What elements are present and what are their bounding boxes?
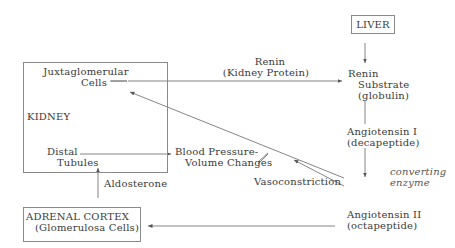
angiotensin-1-line1: Angiotensin I — [347, 126, 420, 137]
blood-pressure-line2: Volume Changes — [175, 157, 272, 168]
renin-substrate-line3: (globulin) — [348, 90, 409, 101]
adrenal-cortex-label: ADRENAL CORTEX (Glomerulosa Cells) — [26, 211, 139, 233]
angiotensin-2-label: Angiotensin II (octapeptide) — [347, 209, 421, 231]
liver-box: LIVER — [351, 15, 395, 34]
juxtaglomerular-label: Juxtaglomerular Cells — [36, 66, 136, 88]
renin-line2: (Kidney Protein) — [207, 67, 325, 78]
angiotensin-2-line1: Angiotensin II — [347, 209, 421, 220]
angiotensin-2-line2: (octapeptide) — [347, 220, 421, 231]
adrenal-cortex-line2: (Glomerulosa Cells) — [26, 222, 139, 233]
vasoconstriction-label: Vasoconstriction — [254, 176, 341, 187]
adrenal-cortex-line1: ADRENAL CORTEX — [26, 211, 139, 222]
converting-enzyme-label: converting enzyme — [380, 166, 446, 188]
blood-pressure-label: Blood Pressure- Volume Changes — [175, 146, 272, 168]
blood-pressure-line1: Blood Pressure- — [175, 146, 272, 157]
renin-line1: Renin — [215, 56, 325, 67]
distal-tubules-label: Distal Tubules — [47, 146, 99, 168]
angiotensin-1-label: Angiotensin I (decapeptide) — [347, 126, 420, 148]
aldosterone-label: Aldosterone — [104, 178, 167, 189]
kidney-label: KIDNEY — [27, 111, 70, 122]
renin-substrate-line1: Renin — [348, 68, 409, 79]
converting-enzyme-line1: converting — [380, 166, 446, 177]
distal-line2: Tubules — [47, 157, 99, 168]
juxtaglomerular-line2: Cells — [36, 77, 136, 88]
liver-label: LIVER — [356, 19, 390, 30]
renin-substrate-label: Renin Substrate (globulin) — [348, 68, 409, 101]
angiotensin-1-line2: (decapeptide) — [347, 137, 420, 148]
juxtaglomerular-line1: Juxtaglomerular — [36, 66, 136, 77]
renin-label: Renin (Kidney Protein) — [215, 56, 325, 78]
renin-substrate-line2: Substrate — [348, 79, 409, 90]
distal-line1: Distal — [47, 146, 99, 157]
converting-enzyme-line2: enzyme — [380, 177, 446, 188]
